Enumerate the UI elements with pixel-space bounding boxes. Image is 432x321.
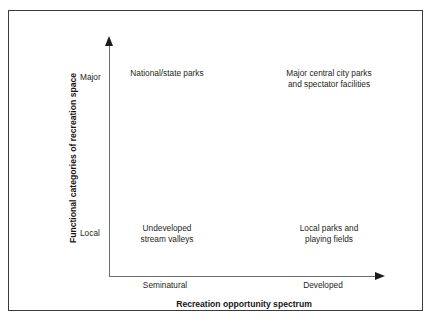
x-axis-line xyxy=(109,276,381,277)
y-axis-arrow-icon xyxy=(105,36,113,46)
y-axis-title: Functional categories of recreation spac… xyxy=(68,45,78,271)
x-axis-title: Recreation opportunity spectrum xyxy=(119,299,369,309)
quadrant-label-top-right-line2: and spectator facilities xyxy=(267,79,391,90)
y-tick-label-local: Local xyxy=(80,228,100,238)
quadrant-label-top-right: Major central city parks and spectator f… xyxy=(267,68,391,89)
quadrant-label-bottom-right: Local parks and playing fields xyxy=(267,223,391,244)
quadrant-label-bottom-left-line2: stream valleys xyxy=(107,234,227,245)
quadrant-label-bottom-left-line1: Undeveloped xyxy=(107,223,227,234)
x-tick-label-developed: Developed xyxy=(277,280,369,290)
quadrant-label-top-left: National/state parks xyxy=(107,68,227,79)
quadrant-label-bottom-left: Undeveloped stream valleys xyxy=(107,223,227,244)
y-tick-label-major: Major xyxy=(80,72,101,82)
quadrant-label-bottom-right-line2: playing fields xyxy=(267,234,391,245)
quadrant-label-bottom-right-line1: Local parks and xyxy=(267,223,391,234)
recreation-space-quadrant-figure: Major Local Seminatural Developed Recrea… xyxy=(0,0,432,321)
figure-border: Major Local Seminatural Developed Recrea… xyxy=(8,10,423,311)
x-axis-arrow-icon xyxy=(375,272,385,280)
x-tick-label-seminatural: Seminatural xyxy=(119,280,211,290)
quadrant-label-top-right-line1: Major central city parks xyxy=(267,68,391,79)
quadrant-label-top-left-line1: National/state parks xyxy=(107,68,227,79)
